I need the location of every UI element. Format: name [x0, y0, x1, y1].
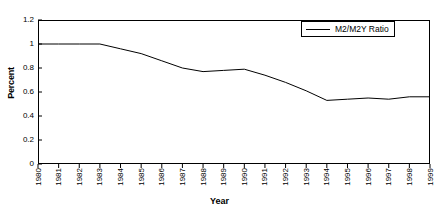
data-series-lines: [38, 44, 430, 100]
legend-entry-label: M2/M2Y Ratio: [335, 25, 389, 34]
x-axis-tick-label: 1986: [157, 168, 166, 186]
x-axis-tick-label: 1999: [426, 168, 435, 186]
x-axis-tick-label: 1990: [240, 168, 249, 186]
x-axis-tick-label: 1989: [219, 168, 228, 186]
x-axis-tick-label: 1983: [95, 168, 104, 186]
x-axis-tick-label: 1995: [343, 168, 352, 186]
x-axis-tick-label: 1996: [364, 168, 373, 186]
x-axis-tick-label: 1998: [405, 168, 414, 186]
chart-legend: M2/M2Y Ratio: [301, 21, 395, 37]
chart-container: 1.210.80.60.40.20 Percent 19801981198219…: [0, 0, 439, 211]
x-axis-tick-label: 1984: [116, 168, 125, 186]
x-axis-tick-label: 1982: [75, 168, 84, 186]
x-axis-tick-label: 1992: [281, 168, 290, 186]
x-axis-tick-label: 1987: [178, 168, 187, 186]
legend-line-swatch: [306, 29, 330, 30]
x-axis-tick-label: 1991: [260, 168, 269, 186]
x-axis-tick-label: 1994: [322, 168, 331, 186]
x-axis-tick-label: 1993: [302, 168, 311, 186]
axis-tick-marks: [38, 20, 430, 168]
x-axis-tick-label: 1985: [137, 168, 146, 186]
x-axis-tick-label: 1980: [34, 168, 43, 186]
x-axis-tick-label: 1997: [384, 168, 393, 186]
x-axis-tick-label: 1981: [54, 168, 63, 186]
x-axis-tick-label: 1988: [199, 168, 208, 186]
series-line: [38, 44, 430, 100]
x-axis-title: Year: [0, 196, 439, 206]
